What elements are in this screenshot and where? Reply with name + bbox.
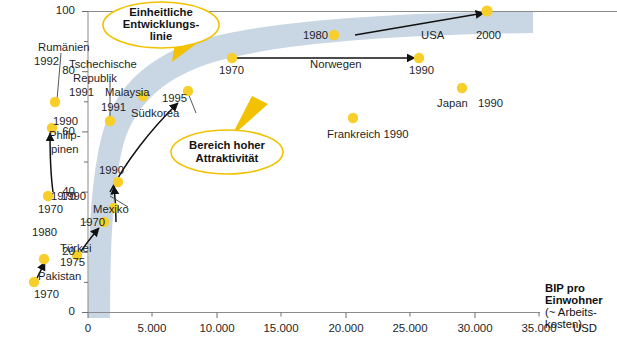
callout-entwicklungslinie-line1: Einheitliche — [103, 6, 219, 19]
label-tschechische-line1: Tschechische — [69, 58, 137, 70]
label-usa-year-2000: 2000 — [476, 29, 501, 41]
chart-canvas — [0, 0, 617, 361]
y-tick-100: 100 — [30, 4, 75, 16]
label-japan: Japan — [437, 97, 468, 109]
label-philippinen-line2: pinen — [51, 143, 79, 155]
callout-attraktivitaet-line2: Attraktivität — [171, 152, 283, 165]
label-suedkorea-year: 1995 — [162, 92, 187, 104]
label-pakistan-year-1980: 1980 — [32, 226, 57, 238]
label-norwegen-year-1970: 1970 — [219, 64, 244, 76]
label-malaysia-year: 1991 — [101, 101, 126, 113]
label-tuerkei-year-1990: 1990 — [61, 190, 86, 202]
data-point-mexiko-1990 — [113, 177, 123, 187]
label-philippinen-line1: Philip- — [49, 129, 80, 141]
x-tick-10000: 10.000 — [187, 322, 247, 334]
x-tick-20000: 20.000 — [316, 322, 376, 334]
label-usa-year-1980: 1980 — [303, 29, 328, 41]
label-mexiko-year-1970: 1970 — [80, 216, 105, 228]
label-philippinen-year-1990: 1990 — [53, 115, 78, 127]
label-malaysia: Malaysia — [105, 86, 150, 98]
label-tschechische-line2: Republik — [73, 72, 117, 84]
label-norwegen-year-1990: 1990 — [409, 64, 434, 76]
label-japan-year: 1990 — [478, 97, 503, 109]
x-tick-0: 0 — [58, 322, 118, 334]
data-point-norwegen-1970 — [227, 53, 237, 63]
label-usa: USA — [421, 29, 444, 41]
x-tick-15000: 15.000 — [251, 322, 311, 334]
callout-entwicklungslinie-line3: linie — [103, 30, 219, 43]
chart-container: 100 80 60 40 20 0 0 5.000 10.000 15.000 … — [0, 0, 617, 361]
data-point-tschechische-1991 — [105, 116, 115, 126]
label-mexiko-year-1990: 1990 — [99, 164, 124, 176]
label-rumaenien-year: 1992 — [34, 55, 59, 67]
label-suedkorea: Südkorea — [131, 107, 179, 119]
label-tschechische-year: 1991 — [69, 86, 94, 98]
x-tick-30000: 30.000 — [445, 322, 505, 334]
x-tick-25000: 25.000 — [380, 322, 440, 334]
callout-entwicklungslinie-line2: Entwicklungs- — [103, 18, 219, 31]
data-point-norwegen-1990 — [414, 53, 424, 63]
y-tick-0: 0 — [30, 305, 75, 317]
label-tuerkei-year-1975: 1975 — [60, 256, 85, 268]
arrow-philippinen — [50, 133, 53, 192]
x-axis-ticks — [88, 313, 539, 319]
data-point-japan-1990 — [457, 83, 467, 93]
label-frankreich: Frankreich 1990 — [327, 128, 409, 140]
data-point-frankreich-1990 — [348, 113, 358, 123]
data-point-usa-1980 — [329, 30, 339, 40]
label-mexiko: Mexiko — [93, 203, 129, 215]
x-axis-unit: USD — [573, 322, 597, 336]
label-rumaenien: Rumänien — [38, 41, 90, 53]
label-tuerkei: Türkei — [60, 242, 91, 254]
label-pakistan: Pakistan — [38, 270, 81, 282]
data-point-usa-2000 — [481, 5, 492, 16]
callout-attraktivitaet-line1: Bereich hoher — [171, 139, 283, 152]
label-norwegen: Norwegen — [310, 58, 362, 70]
x-tick-5000: 5.000 — [122, 322, 182, 334]
label-tuerkei-year-1970: 1970 — [38, 203, 63, 215]
label-pakistan-year-1970: 1970 — [34, 288, 59, 300]
data-point-rumaenien-1992 — [50, 97, 60, 107]
